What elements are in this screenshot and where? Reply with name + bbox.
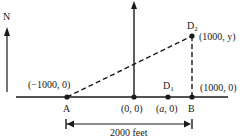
point-d2-label: D2	[187, 21, 198, 33]
diagram-canvas	[0, 0, 242, 138]
point-b-coord: (1000, 0)	[200, 83, 237, 93]
point-d2	[189, 33, 194, 38]
distance-label: 2000 feet	[110, 128, 148, 138]
point-d1	[165, 94, 170, 99]
point-a	[64, 94, 69, 99]
point-b-label: B	[188, 104, 195, 114]
origin-coord: (0, 0)	[121, 104, 143, 114]
north-arrow-icon	[4, 27, 10, 92]
point-origin	[131, 94, 136, 99]
y-axis-arrow	[131, 1, 137, 97]
point-a-coord: (−1000, 0)	[28, 80, 70, 90]
point-a-label: A	[63, 104, 70, 114]
point-b	[189, 94, 194, 99]
north-label: N	[3, 12, 10, 22]
point-d1-coord: (a, 0)	[156, 104, 178, 114]
point-d1-label: D1	[163, 81, 174, 93]
point-d2-coord: (1000, y)	[199, 32, 236, 42]
